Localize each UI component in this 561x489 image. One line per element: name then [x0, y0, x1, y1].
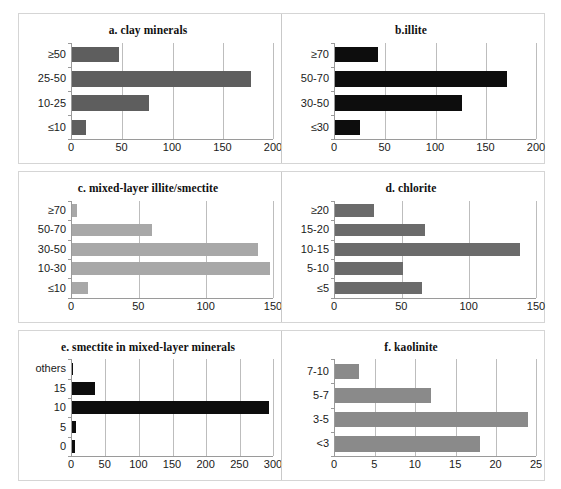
bars-area: [71, 201, 273, 298]
bars-area: [71, 43, 273, 140]
bar-slot: [335, 43, 536, 67]
x-tick-label: 0: [68, 142, 74, 153]
x-tick-label: 150: [527, 301, 545, 312]
bar-slot: [335, 240, 536, 259]
panel-d-chlorite: d. chlorite ≥2015-2010-155-10≤5 05010015…: [281, 172, 544, 321]
plot-body: ≥2015-2010-155-10≤5: [286, 201, 536, 298]
x-axis-line: [334, 298, 536, 299]
bar-slot: [72, 437, 273, 456]
x-tick-label: 200: [527, 142, 545, 153]
x-tick-label: 0: [331, 459, 337, 470]
y-tick-label: 0: [23, 437, 66, 456]
x-axis: 050100150200: [334, 139, 536, 159]
y-tick-label: 50-70: [286, 67, 329, 91]
y-axis-labels: ≥7050-7030-5010-30≤10: [23, 201, 71, 298]
plot-body: ≥7050-7030-5010-30≤10: [23, 201, 273, 298]
x-tick-label: 250: [230, 459, 248, 470]
y-tick-label: ≤5: [286, 278, 329, 297]
x-tick-label: 150: [163, 459, 181, 470]
bar: [335, 282, 422, 294]
bar: [335, 436, 480, 451]
x-axis-line: [71, 139, 273, 140]
bar: [335, 243, 520, 255]
bar: [335, 412, 528, 427]
panel-title: a. clay minerals: [23, 24, 273, 37]
bar-slot: [72, 43, 273, 67]
bar-slot: [72, 67, 273, 91]
y-axis-labels: others151050: [23, 359, 71, 456]
bar-slot: [72, 359, 273, 378]
bar: [72, 95, 149, 110]
x-tick-label: 50: [395, 301, 407, 312]
y-tick-label: 5: [23, 417, 66, 436]
y-axis-labels: ≥5025-5010-25≤10: [23, 43, 71, 140]
panel-e-smectite-in-mixed-layer-minerals: e. smectite in mixed-layer minerals othe…: [19, 331, 281, 480]
y-tick-label: 50-70: [23, 220, 66, 239]
bar: [335, 204, 374, 216]
x-axis: 050100150: [334, 298, 536, 318]
bar-slot: [335, 432, 536, 456]
y-tick-label: 30-50: [23, 240, 66, 259]
bar-slot: [335, 91, 536, 115]
bar-slot: [72, 201, 273, 220]
bar-slot: [72, 398, 273, 417]
x-tick-label: 15: [449, 459, 461, 470]
bar: [72, 282, 88, 294]
plot-area: ≥7050-7030-5010-30≤10 050100150: [23, 201, 273, 318]
bar-slot: [72, 259, 273, 278]
bar: [335, 95, 462, 110]
panel-title: c. mixed-layer illite/smectite: [23, 182, 273, 195]
multi-panel-bar-chart-figure: a. clay minerals ≥5025-5010-25≤10 050100…: [0, 0, 561, 489]
bars-area: [71, 359, 273, 456]
bar: [72, 120, 86, 135]
bar: [335, 364, 359, 379]
plot-body: ≥7050-7030-50≤30: [286, 43, 536, 140]
gridline: [273, 43, 274, 140]
bar: [335, 47, 378, 62]
bars-area: [334, 359, 536, 456]
panel-title: d. chlorite: [286, 182, 536, 195]
x-tick-label: 0: [331, 142, 337, 153]
bar-slot: [335, 115, 536, 139]
bar-slot: [72, 91, 273, 115]
bar-slot: [335, 201, 536, 220]
y-tick-label: 10: [23, 398, 66, 417]
plot-area: ≥7050-7030-50≤30 050100150200: [286, 43, 536, 160]
bar-slot: [335, 67, 536, 91]
bar-slot: [335, 259, 536, 278]
x-tick-label: 100: [196, 301, 214, 312]
x-tick-label: 0: [331, 301, 337, 312]
bar-slot: [72, 220, 273, 239]
bar-slot: [335, 408, 536, 432]
gridline: [536, 43, 537, 140]
x-tick-label: 200: [196, 459, 214, 470]
bar-series: [335, 201, 536, 298]
y-tick-label: <3: [286, 432, 329, 456]
x-tick-label: 200: [264, 142, 282, 153]
y-tick-label: ≥70: [286, 43, 329, 67]
x-tick-label: 150: [213, 142, 231, 153]
bar: [335, 120, 360, 135]
plot-area: ≥5025-5010-25≤10 050100150200: [23, 43, 273, 160]
bar: [72, 243, 258, 255]
y-tick-label: 30-50: [286, 91, 329, 115]
bar: [335, 388, 431, 403]
bar-slot: [335, 359, 536, 383]
panel-c-mixed-layer-illite-smectite: c. mixed-layer illite/smectite ≥7050-703…: [19, 172, 281, 321]
bar: [72, 262, 270, 274]
y-tick-label: ≥20: [286, 201, 329, 220]
bar: [72, 382, 95, 394]
x-tick-label: 10: [409, 459, 421, 470]
y-tick-label: 7-10: [286, 359, 329, 383]
x-tick-label: 50: [115, 142, 127, 153]
panel-title: b.illite: [286, 24, 536, 37]
x-axis: 050100150200: [71, 139, 273, 159]
plot-body: 7-105-73-5<3: [286, 359, 536, 456]
bar: [72, 224, 152, 236]
y-tick-label: 10-30: [23, 259, 66, 278]
bar: [335, 224, 425, 236]
bar-series: [72, 201, 273, 298]
bar-slot: [335, 383, 536, 407]
y-tick-label: 5-10: [286, 259, 329, 278]
y-tick-label: 15-20: [286, 220, 329, 239]
